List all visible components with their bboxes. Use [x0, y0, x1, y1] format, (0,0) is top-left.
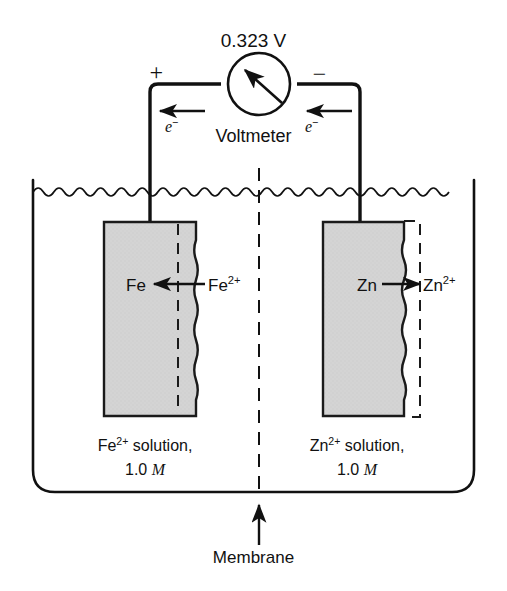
negative-terminal-sign: − [311, 62, 327, 86]
iron-ion-label: Fe2+ [208, 274, 241, 296]
voltage-reading: 0.323 V [0, 30, 507, 52]
zinc-electrode [323, 221, 420, 417]
left-solution-charge: 2+ [116, 435, 128, 447]
zinc-electrode-label: Zn [357, 276, 377, 296]
iron-electrode-label: Fe [126, 276, 146, 296]
voltmeter-circle-icon[interactable] [228, 53, 290, 115]
figure-canvas: 0.323 V + − Voltmeter e− e− Fe Fe2+ Zn Z… [0, 0, 507, 591]
electron-label-right: e− [305, 116, 318, 136]
electron-charge-right: − [312, 116, 318, 128]
right-solution-charge: 2+ [328, 435, 340, 447]
electron-label-left: e− [165, 116, 178, 136]
zinc-ion-charge: 2+ [443, 274, 456, 286]
electron-charge-left: − [172, 116, 178, 128]
positive-terminal-sign: + [148, 60, 164, 84]
zinc-ion-species: Zn [423, 276, 443, 295]
right-solution-conc: 1.0 [337, 461, 359, 478]
iron-electrode [104, 222, 198, 416]
right-solution-word: solution, [340, 437, 404, 454]
voltmeter-label: Voltmeter [0, 126, 507, 147]
left-solution-unit: M [152, 461, 165, 478]
water-surface-icon [33, 188, 449, 196]
left-solution-species: Fe [98, 437, 117, 454]
zinc-ion-label: Zn2+ [423, 274, 456, 296]
right-solution-species: Zn [310, 437, 329, 454]
left-solution-label: Fe2+ solution, 1.0 M [60, 434, 230, 481]
left-solution-word: solution, [128, 437, 192, 454]
right-solution-unit: M [364, 461, 377, 478]
left-solution-conc: 1.0 [125, 461, 147, 478]
membrane-label: Membrane [0, 548, 507, 568]
iron-ion-charge: 2+ [228, 274, 241, 286]
right-solution-label: Zn2+ solution, 1.0 M [272, 434, 442, 481]
iron-ion-species: Fe [208, 276, 228, 295]
